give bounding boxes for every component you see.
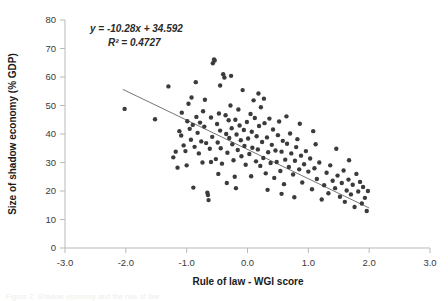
scatter-point [208, 147, 212, 151]
scatter-point [356, 189, 360, 193]
scatter-point [259, 105, 263, 109]
scatter-point [192, 145, 196, 149]
scatter-point [326, 191, 330, 195]
scatter-point [262, 121, 266, 125]
scatter-point [351, 183, 355, 187]
scatter-point [215, 122, 219, 126]
scatter-point [174, 149, 178, 153]
scatter-point [260, 140, 264, 144]
scatter-point [239, 154, 243, 158]
scatter-point [275, 160, 279, 164]
scatter-point [340, 181, 344, 185]
y-tick-label: 50 [45, 100, 56, 111]
scatter-point [256, 147, 260, 151]
scatter-point [184, 163, 188, 167]
scatter-point [330, 179, 334, 183]
scatter-point [324, 171, 328, 175]
scatter-point [191, 123, 195, 127]
scatter-point [247, 152, 251, 156]
scatter-point [281, 139, 285, 143]
y-tick-label: 10 [45, 214, 56, 225]
scatter-point [194, 80, 198, 84]
scatter-chart-figure: 01020304050607080 -3.0-2.0-1.00.01.02.03… [0, 0, 448, 301]
y-tick-label: 20 [45, 185, 56, 196]
scatter-point [312, 166, 316, 170]
y-tick-label: 70 [45, 43, 56, 54]
scatter-point [175, 165, 179, 169]
scatter-point [188, 127, 192, 131]
scatter-point [310, 187, 314, 191]
scatter-point [295, 137, 299, 141]
scatter-point [289, 151, 293, 155]
scatter-point [306, 169, 310, 173]
scatter-point [180, 110, 184, 114]
scatter-point [308, 156, 312, 160]
scatter-point [246, 136, 250, 140]
scatter-point [209, 160, 213, 164]
scatter-point [334, 147, 338, 151]
scatter-point [333, 186, 337, 190]
scatter-point [204, 141, 208, 145]
scatter-point [237, 123, 241, 127]
scatter-point [233, 175, 237, 179]
y-axis-title: Size of shadow economy (% GDP) [7, 53, 18, 215]
scatter-point [341, 168, 345, 172]
scatter-point [279, 149, 283, 153]
scatter-point [225, 151, 229, 155]
scatter-point [242, 144, 246, 148]
scatter-point [189, 138, 193, 142]
scatter-point [266, 150, 270, 154]
scatter-point [262, 96, 266, 100]
scatter-point [228, 103, 232, 107]
scatter-point [236, 148, 240, 152]
scatter-point [287, 165, 291, 169]
y-tick-label: 60 [45, 71, 56, 82]
scatter-point [344, 188, 348, 192]
scatter-point [273, 148, 277, 152]
scatter-point [230, 142, 234, 146]
scatter-point [218, 128, 222, 132]
scatter-point [276, 133, 280, 137]
scatter-point [300, 180, 304, 184]
scatter-point [299, 153, 303, 157]
scatter-point [265, 135, 269, 139]
scatter-point [251, 98, 255, 102]
scatter-point [177, 129, 181, 133]
scatter-point [185, 119, 189, 123]
x-tick-label: -1.0 [178, 257, 194, 268]
scatter-point [279, 192, 283, 196]
scatter-point [245, 120, 249, 124]
scatter-point [365, 209, 369, 213]
scatter-point [302, 162, 306, 166]
scatter-point [179, 133, 183, 137]
scatter-point [267, 116, 271, 120]
x-tick-label: 1.0 [302, 257, 315, 268]
scatter-point [261, 156, 265, 160]
scatter-point [338, 195, 342, 199]
scatter-point [236, 107, 240, 111]
scatter-point [206, 193, 210, 197]
scatter-point [222, 75, 226, 79]
scatter-point [347, 158, 351, 162]
y-tick-label: 30 [45, 157, 56, 168]
scatter-point [349, 192, 353, 196]
scatter-point [231, 158, 235, 162]
scatter-point [200, 160, 204, 164]
scatter-point [257, 124, 261, 128]
scatter-point [166, 84, 170, 88]
scatter-point [250, 130, 254, 134]
x-tick-label: 0.0 [241, 257, 254, 268]
scatter-point [249, 174, 253, 178]
scatter-point [317, 160, 321, 164]
x-tick-label: 3.0 [423, 257, 436, 268]
scatter-point [366, 189, 370, 193]
scatter-point [291, 172, 295, 176]
scatter-point [298, 122, 302, 126]
scatter-point [256, 91, 260, 95]
scatter-point [270, 143, 274, 147]
scatter-point [315, 177, 319, 181]
scatter-point [219, 146, 223, 150]
scatter-point [328, 163, 332, 167]
scatter-point [223, 113, 227, 117]
scatter-point [191, 185, 195, 189]
